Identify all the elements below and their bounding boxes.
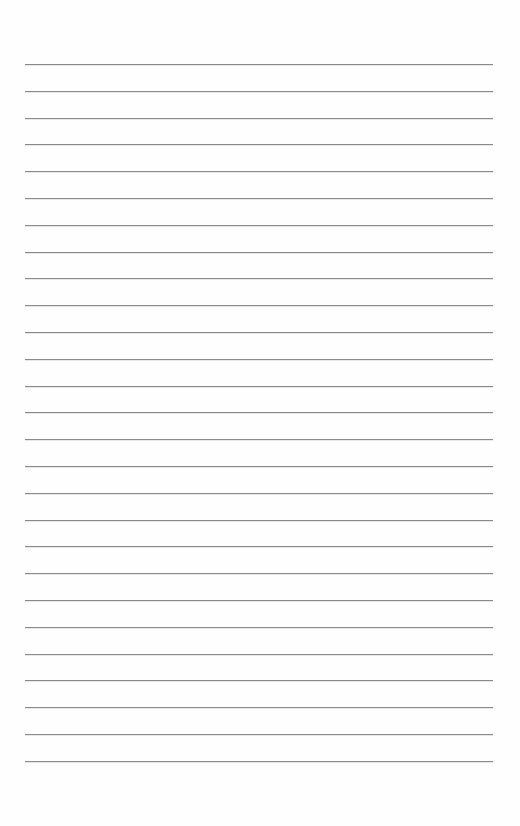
ruled-line <box>25 252 493 253</box>
ruled-line <box>25 198 493 199</box>
ruled-line <box>25 386 493 387</box>
ruled-line <box>25 761 493 762</box>
ruled-line <box>25 305 493 306</box>
ruled-line <box>25 493 493 494</box>
ruled-line <box>25 171 493 172</box>
ruled-line <box>25 627 493 628</box>
ruled-line <box>25 64 493 65</box>
ruled-line <box>25 734 493 735</box>
ruled-line <box>25 332 493 333</box>
ruled-line <box>25 118 493 119</box>
ruled-line <box>25 439 493 440</box>
ruled-line <box>25 680 493 681</box>
ruled-line <box>25 707 493 708</box>
ruled-line <box>25 144 493 145</box>
ruled-line <box>25 466 493 467</box>
ruled-line <box>25 546 493 547</box>
ruled-line <box>25 654 493 655</box>
ruled-line <box>25 412 493 413</box>
ruled-line <box>25 91 493 92</box>
ruled-line <box>25 520 493 521</box>
ruled-line <box>25 359 493 360</box>
ruled-line <box>25 600 493 601</box>
lined-paper-page <box>0 0 520 826</box>
ruled-line <box>25 573 493 574</box>
ruled-line <box>25 225 493 226</box>
ruled-line <box>25 278 493 279</box>
